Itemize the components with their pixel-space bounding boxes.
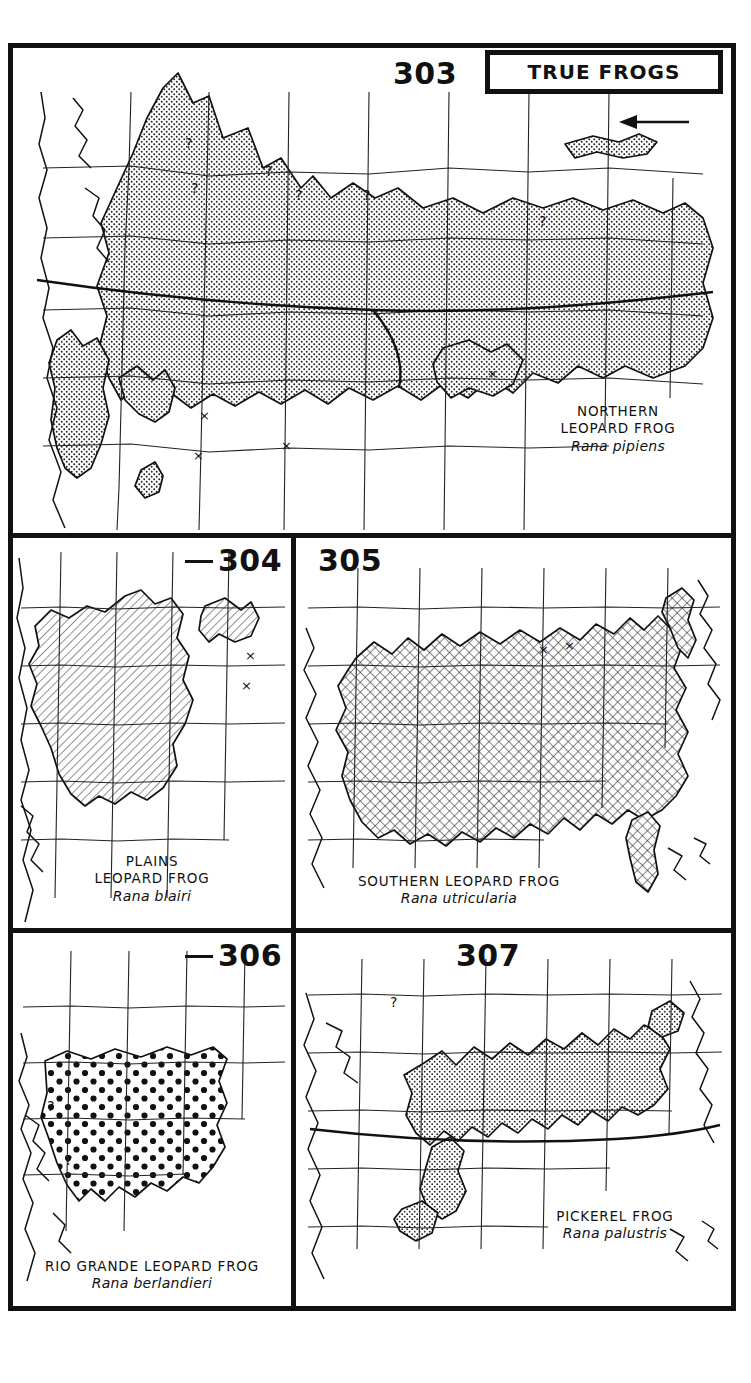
caption-304: PLAINS LEOPARD FROG Rana blairi [27,853,277,905]
map-305: × × [296,538,731,928]
svg-text:?: ? [539,213,546,229]
map-306: ? ? [13,933,291,1306]
map-307: ? [296,933,731,1306]
common-name-304-line2: LEOPARD FROG [27,870,277,887]
caption-303: NORTHERN LEOPARD FROG Rana pipiens [523,403,713,455]
svg-text:?: ? [295,187,302,203]
plate-title-box: TRUE FROGS [485,50,723,94]
common-name-304-line1: PLAINS [27,853,277,870]
svg-text:?: ? [191,180,198,196]
svg-text:×: × [487,366,498,381]
panel-number-305: 305 [318,543,382,578]
panel-304-plains-leopard-frog[interactable]: × × 304 PLAINS LEOPARD FROG Rana blairi [13,538,291,928]
caption-307: PICKEREL FROG Rana palustris [515,1208,715,1243]
panel-number-dash-306 [185,955,213,958]
svg-text:?: ? [363,187,370,203]
svg-text:×: × [538,642,549,657]
svg-text:×: × [245,648,256,663]
panel-number-304: 304 [218,543,282,578]
common-name-303-line1: NORTHERN [523,403,713,420]
svg-text:?: ? [390,994,397,1010]
panel-number-306: 306 [218,938,282,973]
common-name-305-line1: SOUTHERN LEOPARD FROG [314,873,604,890]
svg-text:?: ? [47,1098,54,1114]
scientific-name-307: Rana palustris [515,1225,715,1243]
svg-text:×: × [199,408,210,423]
svg-text:?: ? [65,1152,72,1168]
panel-number-307: 307 [456,938,520,973]
panel-305-southern-leopard-frog[interactable]: × × 305 SOUTHERN LEOPARD FROG Rana utric… [296,538,731,928]
scientific-name-306: Rana berlandieri [15,1275,289,1293]
common-name-307-line1: PICKEREL FROG [515,1208,715,1225]
plate-frame: ? ? ? ? ? ? × × × × [8,43,736,1311]
plate-title-text: TRUE FROGS [528,60,681,84]
panel-307-pickerel-frog[interactable]: ? 307 PICKEREL FROG Rana palustris [296,933,731,1306]
common-name-306-line1: RIO GRANDE LEOPARD FROG [15,1258,289,1275]
svg-text:×: × [241,678,252,693]
scientific-name-304: Rana blairi [27,888,277,906]
question-marks-307: ? [390,994,397,1010]
caption-305: SOUTHERN LEOPARD FROG Rana utricularia [314,873,604,908]
svg-text:×: × [193,448,204,463]
panel-303-northern-leopard-frog[interactable]: ? ? ? ? ? ? × × × × [13,48,731,533]
common-name-303-line2: LEOPARD FROG [523,420,713,437]
plate-page: ? ? ? ? ? ? × × × × [0,0,751,1383]
panel-number-dash-304 [185,560,213,563]
svg-text:?: ? [265,163,272,179]
caption-306: RIO GRANDE LEOPARD FROG Rana berlandieri [15,1258,289,1293]
scientific-name-303: Rana pipiens [523,438,713,456]
map-303: ? ? ? ? ? ? × × × × [13,48,731,533]
svg-text:×: × [564,638,575,653]
panel-306-rio-grande-leopard-frog[interactable]: ? ? 306 RIO GRANDE LEOPARD FROG Rana ber… [13,933,291,1306]
svg-text:?: ? [185,135,192,151]
scientific-name-305: Rana utricularia [314,890,604,908]
pointer-arrow-303 [619,115,689,129]
svg-text:×: × [281,438,292,453]
panel-number-303: 303 [393,56,457,91]
x-marks-304: × × [241,648,256,693]
